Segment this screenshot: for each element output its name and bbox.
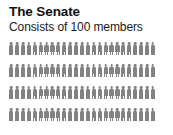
person-icon <box>33 64 37 77</box>
person-icon <box>145 108 149 121</box>
person-icon <box>27 64 31 77</box>
person-icon <box>9 64 13 77</box>
person-icon <box>62 42 66 55</box>
person-icon <box>80 64 84 77</box>
person-icon <box>80 86 84 99</box>
pictogram-grid <box>9 42 161 135</box>
person-icon <box>133 42 137 55</box>
person-icon <box>56 86 60 99</box>
senate-pictogram-infographic: The Senate Consists of 100 members <box>0 0 173 135</box>
person-icon <box>109 108 113 121</box>
person-icon <box>15 108 19 121</box>
person-icon <box>104 64 108 77</box>
person-icon <box>27 86 31 99</box>
person-icon <box>44 64 48 77</box>
person-icon <box>145 86 149 99</box>
person-icon <box>56 108 60 121</box>
person-icon <box>151 86 155 99</box>
person-icon <box>86 64 90 77</box>
person-icon <box>151 64 155 77</box>
person-icon <box>151 42 155 55</box>
person-icon <box>62 108 66 121</box>
person-icon <box>15 64 19 77</box>
person-icon <box>74 64 78 77</box>
person-icon <box>39 86 43 99</box>
person-icon <box>98 108 102 121</box>
person-icon <box>104 42 108 55</box>
person-icon <box>139 86 143 99</box>
person-icon <box>44 108 48 121</box>
person-icon <box>27 108 31 121</box>
person-icon <box>121 64 125 77</box>
person-icon <box>39 108 43 121</box>
person-icon <box>62 86 66 99</box>
person-icon <box>68 86 72 99</box>
pictogram-row <box>9 108 161 130</box>
person-icon <box>68 42 72 55</box>
person-icon <box>56 64 60 77</box>
person-icon <box>151 108 155 121</box>
page-subtitle: Consists of 100 members <box>9 20 169 34</box>
person-icon <box>104 86 108 99</box>
person-icon <box>56 42 60 55</box>
person-icon <box>92 42 96 55</box>
person-icon <box>98 64 102 77</box>
person-icon <box>86 42 90 55</box>
person-icon <box>21 42 25 55</box>
person-icon <box>145 42 149 55</box>
header: The Senate Consists of 100 members <box>9 4 169 34</box>
person-icon <box>74 42 78 55</box>
person-icon <box>9 108 13 121</box>
person-icon <box>21 108 25 121</box>
person-icon <box>115 108 119 121</box>
person-icon <box>145 64 149 77</box>
person-icon <box>139 64 143 77</box>
person-icon <box>98 42 102 55</box>
pictogram-row <box>9 64 161 86</box>
person-icon <box>92 86 96 99</box>
person-icon <box>44 42 48 55</box>
person-icon <box>109 42 113 55</box>
person-icon <box>21 86 25 99</box>
person-icon <box>62 64 66 77</box>
person-icon <box>68 64 72 77</box>
person-icon <box>50 108 54 121</box>
person-icon <box>92 108 96 121</box>
person-icon <box>133 108 137 121</box>
person-icon <box>115 64 119 77</box>
person-icon <box>44 86 48 99</box>
person-icon <box>109 64 113 77</box>
pictogram-row <box>9 42 161 64</box>
person-icon <box>139 42 143 55</box>
person-icon <box>115 42 119 55</box>
person-icon <box>133 86 137 99</box>
person-icon <box>121 86 125 99</box>
person-icon <box>74 86 78 99</box>
person-icon <box>33 42 37 55</box>
person-icon <box>9 86 13 99</box>
person-icon <box>80 42 84 55</box>
person-icon <box>33 108 37 121</box>
person-icon <box>15 42 19 55</box>
person-icon <box>127 86 131 99</box>
pictogram-row <box>9 86 161 108</box>
person-icon <box>33 86 37 99</box>
person-icon <box>115 86 119 99</box>
person-icon <box>74 108 78 121</box>
person-icon <box>50 42 54 55</box>
person-icon <box>86 108 90 121</box>
person-icon <box>98 86 102 99</box>
person-icon <box>92 64 96 77</box>
person-icon <box>50 86 54 99</box>
person-icon <box>127 64 131 77</box>
person-icon <box>139 108 143 121</box>
person-icon <box>86 86 90 99</box>
person-icon <box>50 64 54 77</box>
person-icon <box>127 42 131 55</box>
person-icon <box>21 64 25 77</box>
person-icon <box>39 42 43 55</box>
person-icon <box>109 86 113 99</box>
person-icon <box>127 108 131 121</box>
person-icon <box>121 108 125 121</box>
person-icon <box>68 108 72 121</box>
